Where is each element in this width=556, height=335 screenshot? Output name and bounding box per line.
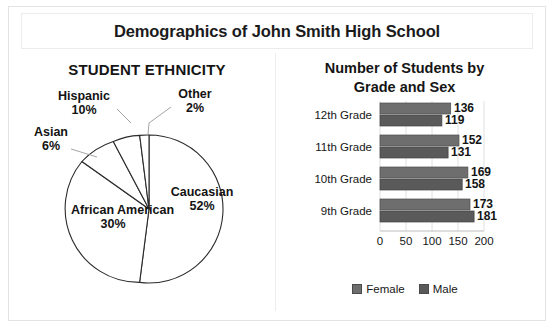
legend-swatch-female-icon	[352, 284, 362, 294]
bar-12th-female	[380, 103, 451, 114]
bar-chart-title-line2: Grade and Sex	[276, 78, 533, 97]
pie-label-african-american: African American 30%	[71, 203, 155, 231]
bar-chart-graphic	[276, 97, 534, 311]
pie-label-other-pct: 2%	[163, 101, 227, 115]
bar-value-9th-male: 181	[477, 209, 497, 223]
pie-label-asian: Asian 6%	[23, 125, 79, 153]
bar-value-11th-male: 131	[451, 145, 471, 159]
x-tick-200: 200	[469, 235, 499, 247]
bar-chart-panel: Number of Students by Grade and Sex	[275, 53, 533, 311]
pie-label-asian-name: Asian	[34, 125, 68, 139]
legend-item-male: Male	[419, 283, 458, 295]
bar-category-10th: 10th Grade	[300, 173, 372, 185]
pie-label-african-american-pct: 30%	[71, 217, 155, 231]
bar-category-9th: 9th Grade	[300, 205, 372, 217]
pie-label-hispanic-pct: 10%	[45, 103, 123, 117]
bar-9th-female	[380, 199, 470, 210]
figure-title: Demographics of John Smith High School	[114, 22, 440, 41]
bar-chart-legend: Female Male	[276, 283, 534, 295]
bar-10th-female	[380, 167, 468, 178]
bar-12th-male	[380, 115, 442, 126]
pie-label-caucasian-name: Caucasian	[171, 185, 234, 199]
legend-swatch-male-icon	[419, 284, 429, 294]
pie-label-african-american-name: African American	[71, 203, 174, 217]
bar-category-11th: 11th Grade	[300, 141, 372, 153]
legend-label-male: Male	[433, 283, 458, 295]
bar-category-12th: 12th Grade	[300, 109, 372, 121]
demographics-figure: Demographics of John Smith High School S…	[8, 6, 546, 321]
pie-label-asian-pct: 6%	[23, 139, 79, 153]
pie-label-other: Other 2%	[163, 87, 227, 115]
charts-container: STUDENT ETHNICITY	[21, 53, 533, 311]
figure-title-box: Demographics of John Smith High School	[21, 13, 533, 49]
bar-chart-title-line1: Number of Students by	[276, 59, 533, 78]
bar-value-12th-male: 119	[445, 113, 464, 127]
pie-chart-panel: STUDENT ETHNICITY	[21, 53, 273, 311]
pie-label-hispanic-name: Hispanic	[58, 89, 110, 103]
legend-item-female: Female	[352, 283, 404, 295]
bar-10th-male	[380, 179, 462, 190]
pie-label-other-name: Other	[178, 87, 211, 101]
bar-11th-female	[380, 135, 459, 146]
bar-value-10th-male: 158	[465, 177, 485, 191]
bar-9th-male	[380, 211, 474, 222]
bar-chart-area: 12th Grade 11th Grade 10th Grade 9th Gra…	[276, 97, 534, 311]
bar-chart-title: Number of Students by Grade and Sex	[276, 59, 533, 97]
legend-label-female: Female	[366, 283, 404, 295]
pie-chart-area: Hispanic 10% Other 2% Asian 6% Caucasian…	[21, 53, 273, 311]
pie-label-hispanic: Hispanic 10%	[45, 89, 123, 117]
bar-11th-male	[380, 147, 448, 158]
